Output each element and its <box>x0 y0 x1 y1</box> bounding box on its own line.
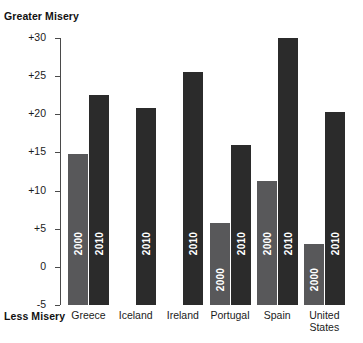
y-tick-label: +30 <box>28 31 46 43</box>
bar-group: 20002010 <box>66 38 111 305</box>
less-misery-label: Less Misery <box>4 310 65 322</box>
bar-united-states-2010: 2010 <box>325 112 345 305</box>
y-tick: +20 <box>55 114 60 115</box>
bar-year-label: 2010 <box>329 232 340 255</box>
bar-spain-2010: 2010 <box>278 38 298 305</box>
bar-iceland-2010: 2010 <box>136 108 156 305</box>
bar-group: 20002010 <box>255 38 300 305</box>
bar-united-states-2000: 2000 <box>304 244 324 305</box>
greater-misery-label: Greater Misery <box>4 10 79 22</box>
y-tick-label: +5 <box>34 222 46 234</box>
y-tick-label: +10 <box>28 184 46 196</box>
bar-year-label: 2000 <box>214 268 225 291</box>
bar-ireland-2010: 2010 <box>183 72 203 305</box>
y-tick-label: 0 <box>40 260 46 272</box>
bar-year-label: 2010 <box>235 232 246 255</box>
plot-area: -50+5+10+15+20+25+30 2000201020002010200… <box>60 38 355 305</box>
bar-group: 20002010 <box>160 38 205 305</box>
bar-greece-2000: 2000 <box>68 154 88 305</box>
y-axis-line <box>60 38 61 305</box>
y-tick-label: +25 <box>28 69 46 81</box>
bar-year-label: 2000 <box>261 232 272 255</box>
bar-year-label: 2010 <box>141 232 152 255</box>
category-label-united-states: United States <box>295 309 353 333</box>
y-tick: +15 <box>55 152 60 153</box>
y-tick: +25 <box>55 76 60 77</box>
bar-greece-2010: 2010 <box>89 95 109 305</box>
bar-year-label: 2010 <box>94 232 105 255</box>
bar-group: 20002010 <box>302 38 347 305</box>
y-tick-label: +20 <box>28 107 46 119</box>
y-tick: +5 <box>55 229 60 230</box>
bar-portugal-2010: 2010 <box>231 145 251 305</box>
y-tick-label: +15 <box>28 145 46 157</box>
y-tick-label: -5 <box>37 298 46 310</box>
y-tick: 0 <box>55 267 60 268</box>
bar-year-label: 2010 <box>188 232 199 255</box>
bar-spain-2000: 2000 <box>257 181 277 305</box>
y-tick: -5 <box>55 305 60 306</box>
bar-group: 20002010 <box>113 38 158 305</box>
bar-year-label: 2000 <box>308 268 319 291</box>
bar-year-label: 2000 <box>73 232 84 255</box>
y-tick: +30 <box>55 38 60 39</box>
bar-year-label: 2010 <box>282 232 293 255</box>
misery-index-bar-chart: Greater Misery Less Misery -50+5+10+15+2… <box>0 0 363 343</box>
bar-group: 20002010 <box>208 38 253 305</box>
y-tick: +10 <box>55 191 60 192</box>
bar-portugal-2000: 2000 <box>210 223 230 305</box>
